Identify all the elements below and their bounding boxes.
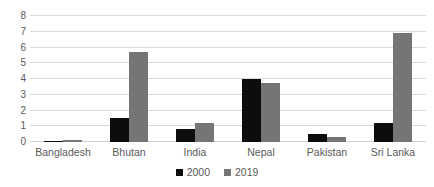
x-axis-category-label: Pakistan bbox=[294, 146, 360, 159]
legend-label: 2019 bbox=[235, 167, 258, 178]
x-axis-category-label: Bhutan bbox=[96, 146, 162, 159]
bar bbox=[110, 118, 129, 142]
y-axis-tick-labels: 012345678 bbox=[0, 16, 26, 142]
bar-group bbox=[374, 16, 412, 142]
bars-layer bbox=[30, 16, 426, 142]
legend-swatch-icon bbox=[224, 169, 231, 176]
bar bbox=[44, 141, 63, 142]
bar-group bbox=[308, 16, 346, 142]
chart-legend: 20002019 bbox=[0, 167, 434, 178]
bar bbox=[242, 79, 261, 142]
plot-area bbox=[30, 16, 426, 142]
y-axis-tick-label: 0 bbox=[20, 137, 26, 147]
legend-label: 2000 bbox=[187, 167, 210, 178]
legend-item[interactable]: 2019 bbox=[224, 167, 258, 178]
bar-group bbox=[44, 16, 82, 142]
y-axis-tick-label: 8 bbox=[20, 11, 26, 21]
y-axis-tick-label: 1 bbox=[20, 121, 26, 131]
bar bbox=[393, 33, 412, 142]
x-axis-category-label: Sri Lanka bbox=[360, 146, 426, 159]
x-axis-category-labels: BangladeshBhutanIndiaNepalPakistanSri La… bbox=[30, 146, 426, 162]
y-axis-tick-label: 3 bbox=[20, 90, 26, 100]
bar-group bbox=[176, 16, 214, 142]
y-axis-tick-label: 6 bbox=[20, 43, 26, 53]
bar bbox=[374, 123, 393, 142]
x-axis-category-label: Bangladesh bbox=[30, 146, 96, 159]
y-axis-tick-label: 7 bbox=[20, 27, 26, 37]
x-axis-category-label: Nepal bbox=[228, 146, 294, 159]
legend-item[interactable]: 2000 bbox=[176, 167, 210, 178]
bar-chart: 012345678 BangladeshBhutanIndiaNepalPaki… bbox=[0, 0, 434, 187]
y-axis-tick-label: 4 bbox=[20, 74, 26, 84]
bar bbox=[327, 137, 346, 142]
bar-group bbox=[242, 16, 280, 142]
x-axis-category-label: India bbox=[162, 146, 228, 159]
y-axis-tick-label: 2 bbox=[20, 106, 26, 116]
bar bbox=[308, 134, 327, 142]
bar bbox=[63, 140, 82, 142]
bar-group bbox=[110, 16, 148, 142]
legend-swatch-icon bbox=[176, 169, 183, 176]
y-axis-tick-label: 5 bbox=[20, 58, 26, 68]
bar bbox=[176, 129, 195, 142]
bar bbox=[195, 123, 214, 142]
bar bbox=[261, 83, 280, 142]
bar bbox=[129, 52, 148, 142]
